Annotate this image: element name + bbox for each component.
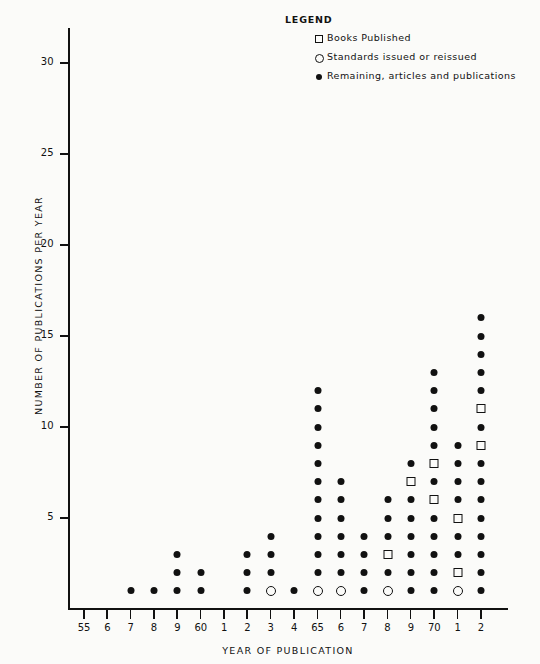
y-tick <box>60 62 69 64</box>
x-tick-label: 60 <box>194 622 207 633</box>
x-tick <box>433 610 435 619</box>
x-tick <box>340 610 342 619</box>
data-point-square <box>453 514 462 523</box>
x-tick-label: 9 <box>174 622 180 633</box>
x-tick-label: 1 <box>454 622 460 633</box>
x-tick <box>223 610 225 619</box>
x-tick-label: 6 <box>338 622 344 633</box>
data-point-dot <box>477 387 484 394</box>
plot-area: 51015202530 5567896012346567897012 NUMBE… <box>0 0 540 664</box>
data-point-dot <box>314 551 321 558</box>
data-point-dot <box>314 405 321 412</box>
data-point-dot <box>314 569 321 576</box>
y-tick <box>60 244 69 246</box>
data-point-dot <box>244 587 251 594</box>
y-tick <box>60 517 69 519</box>
data-point-square <box>406 477 415 486</box>
x-tick <box>200 610 202 619</box>
data-point-dot <box>314 442 321 449</box>
data-point-dot <box>477 551 484 558</box>
data-point-dot <box>477 460 484 467</box>
x-tick-label: 7 <box>128 622 134 633</box>
x-tick-label: 3 <box>268 622 274 633</box>
data-point-dot <box>314 533 321 540</box>
data-point-dot <box>337 533 344 540</box>
x-tick-label: 2 <box>244 622 250 633</box>
data-point-square <box>476 441 485 450</box>
y-tick-label: 30 <box>32 56 54 67</box>
data-point-dot <box>337 496 344 503</box>
data-point-square <box>453 568 462 577</box>
data-point-dot <box>384 496 391 503</box>
x-tick <box>480 610 482 619</box>
data-point-dot <box>431 405 438 412</box>
x-tick-label: 70 <box>428 622 441 633</box>
data-point-dot <box>407 496 414 503</box>
data-point-dot <box>314 496 321 503</box>
data-point-dot <box>151 587 158 594</box>
x-tick <box>317 610 319 619</box>
y-tick-label: 10 <box>32 420 54 431</box>
x-tick <box>410 610 412 619</box>
data-point-dot <box>337 551 344 558</box>
data-point-dot <box>407 533 414 540</box>
data-point-dot <box>174 569 181 576</box>
x-tick <box>387 610 389 619</box>
y-tick-label: 25 <box>32 147 54 158</box>
x-tick-label: 65 <box>311 622 324 633</box>
data-point-dot <box>384 533 391 540</box>
data-point-dot <box>174 551 181 558</box>
data-point-square <box>430 459 439 468</box>
data-point-circle <box>453 586 463 596</box>
x-tick <box>246 610 248 619</box>
data-point-circle <box>383 586 393 596</box>
data-point-dot <box>244 551 251 558</box>
data-point-circle <box>313 586 323 596</box>
x-tick <box>176 610 178 619</box>
data-point-dot <box>407 460 414 467</box>
data-point-square <box>383 550 392 559</box>
data-point-dot <box>127 587 134 594</box>
x-tick-label: 8 <box>151 622 157 633</box>
x-tick <box>106 610 108 619</box>
data-point-dot <box>431 369 438 376</box>
data-point-dot <box>431 587 438 594</box>
x-tick-label: 8 <box>384 622 390 633</box>
data-point-dot <box>431 515 438 522</box>
data-point-dot <box>477 496 484 503</box>
data-point-dot <box>314 387 321 394</box>
data-point-circle <box>266 586 276 596</box>
data-point-dot <box>477 369 484 376</box>
data-point-dot <box>407 569 414 576</box>
y-tick <box>60 426 69 428</box>
data-point-dot <box>477 478 484 485</box>
data-point-dot <box>361 569 368 576</box>
data-point-dot <box>197 569 204 576</box>
data-point-dot <box>454 460 461 467</box>
x-tick-label: 4 <box>291 622 297 633</box>
data-point-dot <box>407 551 414 558</box>
data-point-dot <box>337 478 344 485</box>
data-point-dot <box>431 424 438 431</box>
x-tick-label: 6 <box>104 622 110 633</box>
data-point-dot <box>477 569 484 576</box>
data-point-dot <box>361 587 368 594</box>
y-tick <box>60 335 69 337</box>
data-point-dot <box>197 587 204 594</box>
data-point-square <box>476 404 485 413</box>
data-point-dot <box>477 314 484 321</box>
data-point-dot <box>454 478 461 485</box>
x-tick <box>153 610 155 619</box>
data-point-dot <box>337 515 344 522</box>
data-point-dot <box>314 515 321 522</box>
data-point-dot <box>337 569 344 576</box>
data-point-dot <box>267 569 274 576</box>
data-point-dot <box>477 533 484 540</box>
x-tick <box>270 610 272 619</box>
x-tick-label: 2 <box>478 622 484 633</box>
x-tick <box>457 610 459 619</box>
data-point-dot <box>314 424 321 431</box>
data-point-dot <box>384 569 391 576</box>
x-tick <box>363 610 365 619</box>
x-tick-label: 1 <box>221 622 227 633</box>
